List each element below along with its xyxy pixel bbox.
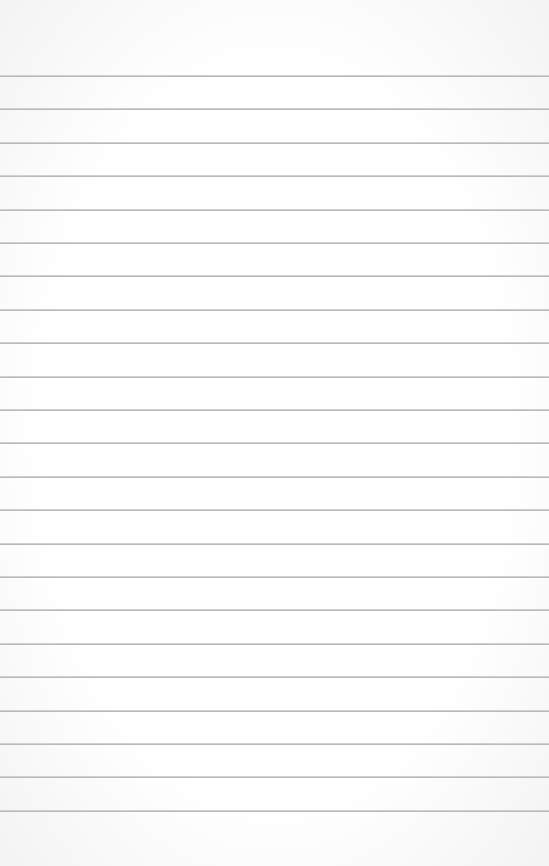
ruled-line — [0, 209, 549, 211]
ruled-line — [0, 376, 549, 378]
ruled-line — [0, 609, 549, 611]
ruled-line — [0, 643, 549, 645]
ruled-line — [0, 309, 549, 311]
ruled-line — [0, 743, 549, 745]
ruled-line — [0, 476, 549, 478]
ruled-line — [0, 175, 549, 177]
ruled-line — [0, 242, 549, 244]
ruled-line — [0, 776, 549, 778]
ruled-line — [0, 676, 549, 678]
ruled-line — [0, 710, 549, 712]
ruled-line — [0, 275, 549, 277]
ruled-line — [0, 75, 549, 77]
ruled-paper-sheet — [0, 0, 549, 866]
ruled-line — [0, 108, 549, 110]
ruled-line — [0, 442, 549, 444]
ruled-line — [0, 409, 549, 411]
ruled-line — [0, 810, 549, 812]
ruled-line — [0, 142, 549, 144]
ruled-line — [0, 543, 549, 545]
ruled-line — [0, 509, 549, 511]
ruled-line — [0, 576, 549, 578]
ruled-line — [0, 342, 549, 344]
